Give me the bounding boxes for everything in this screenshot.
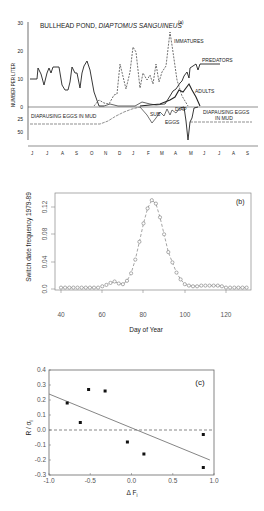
data-point [64,286,67,289]
svg-text:0.4: 0.4 [37,366,46,373]
panel-b: (b) Switch date frequency 1979-89 0.0 0.… [25,192,251,334]
svg-text:J: J [132,151,134,156]
data-point [208,284,211,287]
data-point [84,286,87,289]
b-xticks: 40 60 80 100 120 [57,290,231,318]
data-point [191,285,194,288]
label-diap: DIAP [175,106,187,112]
data-point [109,281,112,284]
data-point [87,388,90,391]
data-point [142,453,145,456]
svg-text:-0.1: -0.1 [35,441,47,448]
svg-text:-0.2: -0.2 [35,456,47,463]
data-point [245,286,248,289]
data-point [216,284,219,287]
svg-text:S: S [75,151,78,156]
panel-c-label: (c) [195,378,205,387]
data-point [138,240,141,243]
data-point [175,271,178,274]
a-ytick-0: 0 [20,104,23,110]
data-point [105,283,108,286]
svg-text:1.0: 1.0 [209,477,218,484]
data-point [121,283,124,286]
data-point [79,421,82,424]
data-point [88,286,91,289]
svg-text:-1.0: -1.0 [43,477,55,484]
svg-text:0.04: 0.04 [41,255,48,268]
data-point [229,286,232,289]
svg-text:120: 120 [221,311,232,318]
regression-line [49,394,210,460]
data-point [179,278,182,281]
data-point [92,286,95,289]
svg-text:0.0: 0.0 [41,284,48,293]
data-point [171,261,174,264]
svg-text:O: O [90,151,94,156]
data-point [200,284,203,287]
svg-text:N: N [104,151,107,156]
svg-text:D: D [118,151,122,156]
svg-text:0.0: 0.0 [37,426,46,433]
data-point [146,207,149,210]
svg-text:S: S [246,151,249,156]
label-sub: SUB [150,111,161,117]
label-predators: PREDATORS [202,57,233,63]
a-ytick-20: 20 [17,48,23,54]
data-point [76,286,79,289]
svg-text:80: 80 [139,311,147,318]
panel-c-ylabel: R / σi [25,420,34,435]
data-point [233,286,236,289]
svg-text:A: A [174,151,177,156]
data-point [104,390,107,393]
panel-a-ylabel: NUMBER PER LITER [11,62,16,107]
data-point [72,286,75,289]
svg-text:-0.5: -0.5 [85,477,97,484]
svg-text:0.0: 0.0 [127,477,136,484]
data-point [183,283,186,286]
label-adults: ADULTS [195,88,215,94]
data-point [117,282,120,285]
panel-b-ylabel: Switch date frequency 1979-89 [25,192,33,282]
data-point [97,286,100,289]
a-ytick-50: 50 [17,129,23,135]
c-yticks: 0.40.30.20.10.0-0.1-0.2-0.3 [35,366,51,478]
data-point [125,279,128,282]
svg-text:A: A [232,151,235,156]
series-adults [140,84,200,106]
svg-text:F: F [147,151,150,156]
svg-text:60: 60 [98,311,106,318]
label-diapausing-eggs-right-2: IN MUD [215,115,233,121]
panel-b-label: (b) [236,198,245,206]
a-ytick-30: 30 [17,20,23,26]
panel-a-label: (a) [178,20,184,25]
panel-c-frame [49,370,214,475]
label-eggs: EGGS [165,119,180,125]
svg-text:J: J [203,151,205,156]
a-month-labels: J J A S O N D J F M A M J J A S [31,151,249,156]
data-point [158,216,161,219]
data-point [204,284,207,287]
scatter-series [49,388,214,469]
data-point [80,286,83,289]
data-point [68,286,71,289]
svg-text:0.12: 0.12 [41,200,48,213]
data-point [224,286,227,289]
data-point [167,251,170,254]
data-point [163,233,166,236]
svg-text:M: M [160,151,164,156]
data-point [101,285,104,288]
svg-text:0.5: 0.5 [168,477,177,484]
svg-text:0.3: 0.3 [37,381,46,388]
switch-frequency-line [61,200,247,287]
data-point [59,286,62,289]
label-diapausing-eggs-left: DIAPAUSING EGGS IN MUD [31,113,97,119]
svg-text:0.2: 0.2 [37,396,46,403]
a-ytick-10: 10 [17,76,23,82]
panel-b-frame [55,193,251,290]
svg-text:0.08: 0.08 [41,227,48,240]
a-ytick-25: 25 [17,116,23,122]
data-point [150,199,153,202]
data-point [237,286,240,289]
switch-frequency-series [59,199,248,290]
data-point [202,466,205,469]
